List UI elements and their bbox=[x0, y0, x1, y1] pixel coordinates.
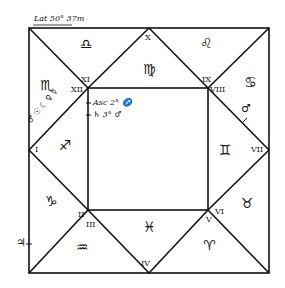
house-x: X bbox=[145, 34, 151, 42]
cusp-x-left bbox=[88, 28, 149, 88]
house-ii: II bbox=[78, 211, 84, 219]
diag-br bbox=[208, 210, 269, 273]
cusp-iv-left bbox=[88, 210, 149, 273]
cusp-vii-upper bbox=[208, 88, 269, 150]
sign-aquarius: ♒ bbox=[76, 240, 89, 254]
house-vi: VI bbox=[215, 208, 224, 216]
mars-cusp-viii: ♂ bbox=[241, 104, 251, 113]
diag-tr bbox=[208, 28, 269, 88]
sign-leo: ♌ bbox=[200, 36, 213, 50]
house-xii: XII bbox=[71, 86, 83, 94]
horoscope-frame bbox=[0, 0, 285, 288]
jupiter-mark: ♃ bbox=[16, 238, 26, 247]
house-xi: XI bbox=[81, 76, 90, 84]
cusp-vii-lower bbox=[208, 150, 269, 210]
cusp-i-lower bbox=[29, 150, 88, 210]
sign-capricorn: ♑ bbox=[45, 194, 58, 208]
mars-tick bbox=[243, 118, 247, 122]
house-iv: IV bbox=[141, 260, 150, 268]
house-iii: III bbox=[86, 221, 95, 229]
cusp-iv-right bbox=[149, 210, 208, 273]
sign-sagittarius: ♐ bbox=[59, 138, 72, 152]
ascendant-note: Asc 2° ♐ bbox=[93, 99, 132, 107]
sign-pisces: ♓ bbox=[143, 220, 156, 234]
saturn-note: ♄ 3° ♂ bbox=[93, 111, 122, 119]
house-ix: IX bbox=[202, 76, 211, 84]
sign-aries: ♈ bbox=[203, 238, 216, 252]
sign-gemini: ♊ bbox=[219, 143, 232, 157]
sign-virgo: ♍ bbox=[143, 62, 156, 76]
house-viii: VIII bbox=[210, 86, 225, 94]
sign-libra: ♎ bbox=[80, 37, 93, 51]
sign-taurus: ♉ bbox=[241, 196, 254, 210]
sign-cancer: ♋ bbox=[244, 75, 257, 89]
house-vii: VII bbox=[251, 146, 263, 154]
house-v: V bbox=[206, 216, 212, 224]
house-i: I bbox=[35, 146, 38, 154]
latitude-label: Lat 50° 37m bbox=[34, 15, 84, 23]
